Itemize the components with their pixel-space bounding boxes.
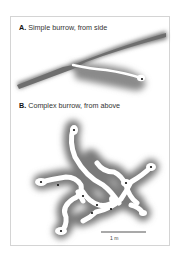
nest-chamber [137,75,145,81]
burrow-illustration [11,17,171,247]
scale-bar-label: 1 m [110,235,118,241]
simple-burrow-diagram [17,31,167,91]
figure-card: A. Simple burrow, from side B. Complex b… [10,16,170,246]
complex-burrow-diagram [35,125,156,235]
chamber-dot [141,78,143,80]
